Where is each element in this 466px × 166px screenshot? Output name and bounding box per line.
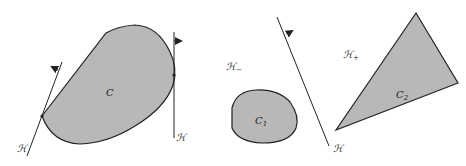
normal-arrow-middle (287, 31, 292, 34)
label-h-plus: ℋ+ (343, 49, 359, 62)
convex-set-c2 (336, 13, 458, 130)
separating-hyperplane-diagram: C ℋ ℋ C1 C2 ℋ− ℋ+ ℋ (0, 0, 466, 166)
convex-set-c (42, 25, 175, 144)
contact-point-left (40, 114, 43, 117)
label-c: C (106, 87, 114, 98)
label-h-minus: ℋ− (226, 61, 242, 74)
left-panel: C ℋ ℋ (17, 25, 188, 156)
label-h-right: ℋ (176, 132, 188, 143)
right-panel: C1 C2 ℋ− ℋ+ ℋ (226, 13, 458, 154)
normal-arrow-left (52, 67, 58, 70)
label-h-left: ℋ (17, 143, 29, 154)
contact-point-right (172, 73, 175, 76)
convex-set-c1 (232, 90, 297, 143)
label-h-middle: ℋ (333, 143, 345, 154)
